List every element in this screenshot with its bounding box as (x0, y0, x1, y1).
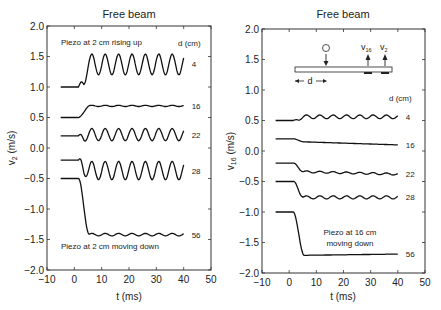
down-arrowhead-icon (324, 61, 329, 66)
beam-rect (295, 67, 392, 72)
y-tick-label: 1.0 (245, 85, 259, 96)
x-tick-label: −10 (254, 277, 271, 288)
y-tick-label: −1.0 (239, 207, 259, 218)
trace-d-56 (61, 179, 184, 236)
right-annotation-line2: moving down (326, 239, 373, 248)
trace-d-4 (276, 115, 398, 121)
piezo-circle-icon (323, 45, 330, 52)
v16-sensor-mark (364, 72, 372, 74)
x-tick-label: 20 (123, 274, 135, 285)
x-tick-label: 50 (419, 277, 431, 288)
x-tick-label: 40 (392, 277, 404, 288)
trace-label-d-56: 56 (406, 250, 415, 259)
x-tick-label: 30 (151, 274, 163, 285)
y-tick-label: −1.5 (24, 234, 44, 245)
y-tick-label: −1.5 (239, 237, 259, 248)
trace-label-d-22: 22 (192, 131, 201, 140)
left-chart: Free beam 2.01.51.00.50.0−0.5−1.0−1.5−2.… (6, 8, 217, 302)
trace-label-d-28: 28 (192, 167, 201, 176)
v2-arrowhead-icon (383, 54, 388, 60)
trace-d-16 (276, 139, 398, 145)
v16-label: v16 (361, 42, 372, 53)
v16-arrowhead-icon (366, 54, 371, 60)
y-tick-label: 2.0 (30, 21, 44, 32)
trace-label-d-22: 22 (406, 170, 415, 179)
x-tick-label: −10 (39, 274, 56, 285)
right-annotation-line1: Piezo at 16 cm (324, 228, 377, 237)
x-tick-label: 0 (286, 277, 292, 288)
trace-label-d-4: 4 (192, 60, 197, 69)
x-tick-label: 30 (365, 277, 377, 288)
d-label: d (307, 76, 312, 86)
trace-d-16 (61, 105, 184, 117)
trace-label-d-16: 16 (192, 102, 201, 111)
y-tick-label: 0.0 (30, 143, 44, 154)
left-traces: 416222856 (61, 54, 201, 240)
right-axis-ticks: 2.01.51.00.50.0−0.5−1.0−1.5−2.0−10010203… (239, 24, 431, 289)
left-annotation-bottom: Piezo at 2 cm moving down (61, 242, 159, 251)
figure: Free beam 2.01.51.00.50.0−0.5−1.0−1.5−2.… (0, 0, 441, 310)
y-tick-label: 0.0 (245, 146, 259, 157)
right-y-axis-label: v16 (m/s) (225, 132, 237, 170)
d-left-arrowhead-icon (295, 79, 299, 83)
x-tick-label: 0 (72, 274, 78, 285)
y-tick-label: 1.5 (245, 54, 259, 65)
beam-diagram-inset: v16 v2 d (295, 42, 392, 86)
left-x-axis-label: t (ms) (116, 291, 142, 302)
y-tick-label: 1.5 (30, 51, 44, 62)
y-tick-label: 0.5 (245, 115, 259, 126)
trace-label-d-4: 4 (406, 113, 411, 122)
y-tick-label: 2.0 (245, 24, 259, 35)
y-tick-label: 1.0 (30, 82, 44, 93)
x-tick-label: 50 (205, 274, 217, 285)
trace-label-d-16: 16 (406, 141, 415, 150)
left-annotation-top: Piezo at 2 cm rising up (61, 38, 142, 47)
right-chart-title: Free beam (316, 8, 369, 20)
trace-label-d-28: 28 (406, 193, 415, 202)
right-chart: Free beam 2.01.51.00.50.0−0.5−1.0−1.5−2.… (225, 8, 431, 302)
x-tick-label: 10 (311, 277, 323, 288)
trace-d-22 (276, 163, 398, 175)
trace-d-28 (276, 182, 398, 199)
right-x-axis-label: t (ms) (330, 291, 356, 302)
left-chart-title: Free beam (102, 8, 155, 20)
right-traces: 416222856 (276, 113, 416, 259)
y-tick-label: 0.5 (30, 112, 44, 123)
trace-d-22 (61, 129, 184, 142)
x-tick-label: 10 (96, 274, 108, 285)
y-tick-label: −0.5 (239, 176, 259, 187)
d-right-arrowhead-icon (323, 79, 327, 83)
trace-d-4 (61, 54, 184, 87)
trace-d-28 (61, 159, 184, 180)
y-tick-label: −0.5 (24, 173, 44, 184)
left-y-axis-label: v2 (m/s) (6, 131, 18, 165)
trace-label-d-56: 56 (192, 231, 201, 240)
right-legend-title: d (cm) (389, 94, 412, 103)
x-tick-label: 20 (338, 277, 350, 288)
v2-sensor-mark (381, 72, 389, 74)
left-legend-title: d (cm) (178, 39, 201, 48)
x-tick-label: 40 (178, 274, 190, 285)
v2-label: v2 (380, 42, 388, 53)
y-tick-label: −1.0 (24, 204, 44, 215)
